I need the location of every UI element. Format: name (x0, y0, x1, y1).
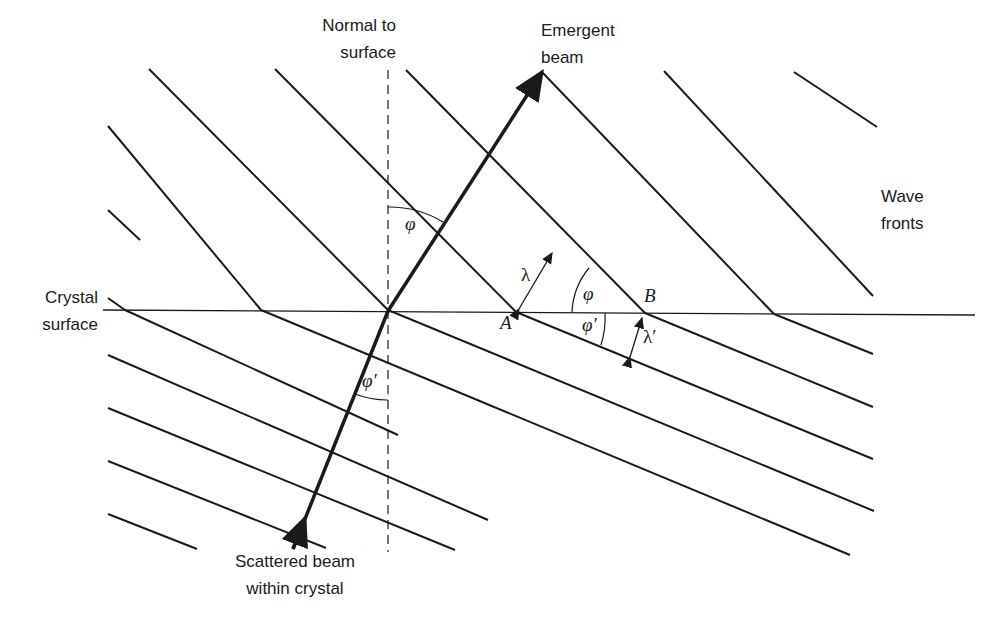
wave-fronts-inside (108, 310, 874, 555)
scattered-beam (293, 311, 388, 549)
lambda-prime-label: λ′ (643, 326, 656, 348)
emergent-label: Emergent beam (541, 17, 615, 71)
wave-fronts-outside (108, 69, 877, 314)
emergent-beam (388, 72, 542, 311)
lambda-label: λ (521, 264, 530, 286)
phi-triangle-label: φ (583, 283, 594, 305)
phi-prime-angle-label: φ′ (362, 370, 377, 392)
emergent-label-line1: Emergent (541, 17, 615, 44)
wave-fronts-label: Wave fronts (881, 183, 924, 237)
scattered-line1: Scattered beam (210, 548, 380, 575)
wave-fronts-line1: Wave (881, 183, 924, 210)
phi-prime-triangle-label: φ′ (582, 314, 597, 336)
scattered-beam-label: Scattered beam within crystal (210, 548, 380, 602)
normal-label: Normal to surface (296, 12, 396, 66)
normal-label-line2: surface (296, 39, 396, 66)
crystal-surface-line2: surface (24, 311, 98, 338)
crystal-surface-line (103, 310, 975, 315)
point-a-label: A (500, 312, 512, 334)
wave-fronts-line2: fronts (881, 210, 924, 237)
crystal-surface-line1: Crystal (24, 284, 98, 311)
normal-label-line1: Normal to (296, 12, 396, 39)
point-b-label: B (644, 285, 656, 307)
emergent-label-line2: beam (541, 44, 615, 71)
refraction-diagram (0, 0, 995, 624)
crystal-surface-label: Crystal surface (24, 284, 98, 338)
scattered-line2: within crystal (210, 575, 380, 602)
phi-angle-label: φ (405, 213, 416, 235)
